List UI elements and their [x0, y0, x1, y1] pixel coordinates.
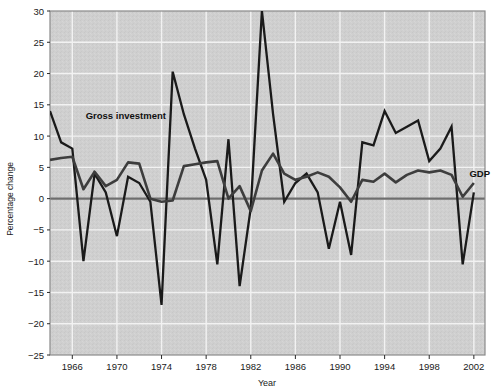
y-tick-label: 5 [39, 162, 44, 173]
y-tick-label: −25 [28, 350, 44, 361]
x-tick-label: 1990 [329, 361, 350, 372]
y-axis-title: Percentage change [5, 162, 15, 236]
x-tick-label: 1966 [62, 361, 83, 372]
y-tick-label: 30 [33, 6, 44, 17]
x-tick-label: 1982 [240, 361, 261, 372]
y-tick-label: −20 [28, 318, 44, 329]
y-tick-label: −15 [28, 287, 44, 298]
x-tick-label: 2002 [463, 361, 484, 372]
x-tick-label: 1974 [151, 361, 172, 372]
x-tick-label: 1978 [196, 361, 217, 372]
y-tick-label: −10 [28, 256, 44, 267]
y-tick-label: 10 [33, 131, 44, 142]
y-tick-label: 20 [33, 68, 44, 79]
x-axis-title: Year [258, 378, 276, 388]
y-tick-label: 25 [33, 37, 44, 48]
y-tick-label: −5 [33, 224, 44, 235]
chart-container: 302520151050−5−10−15−20−25 1966197019741… [0, 0, 502, 391]
y-tick-label: 15 [33, 99, 44, 110]
percentage-change-line-chart: 302520151050−5−10−15−20−25 1966197019741… [0, 0, 502, 391]
series-label-gross-investment: Gross investment [86, 110, 167, 121]
x-tick-label: 1998 [419, 361, 440, 372]
x-tick-label: 1994 [374, 361, 395, 372]
x-tick-label: 1970 [106, 361, 127, 372]
series-label-gdp: GDP [469, 168, 490, 179]
x-tick-label: 1986 [285, 361, 306, 372]
y-tick-label: 0 [39, 193, 44, 204]
